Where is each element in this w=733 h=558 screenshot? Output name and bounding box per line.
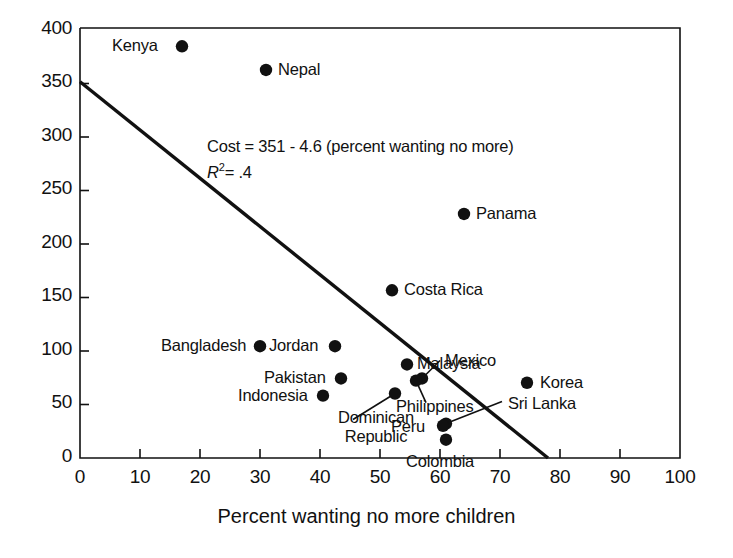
data-point-marker <box>458 208 470 220</box>
data-point-markers <box>176 40 533 446</box>
data-point-marker <box>401 358 413 370</box>
chart-figure: 400 350 300 250 200 150 100 50 0 0 10 20… <box>0 0 733 558</box>
x-tick-label-30: 30 <box>230 466 290 488</box>
regression-equation-text: Cost = 351 - 4.6 (percent wanting no mor… <box>207 137 514 156</box>
data-point-marker <box>440 434 452 446</box>
r-squared-value: = .4 <box>225 163 252 181</box>
data-point-marker <box>521 377 533 389</box>
data-point-marker <box>386 284 398 296</box>
r-squared-symbol: R <box>207 163 219 181</box>
x-tick-label-90: 90 <box>590 466 650 488</box>
data-point-marker <box>410 374 422 386</box>
x-tick-label-10: 10 <box>110 466 170 488</box>
y-axis-ticks <box>80 84 89 405</box>
point-label-korea: Korea <box>540 373 583 392</box>
data-point-marker <box>329 340 341 352</box>
y-tick-label-350: 350 <box>12 70 72 92</box>
point-label-nepal: Nepal <box>278 60 320 79</box>
point-label-panama: Panama <box>476 204 536 223</box>
x-tick-label-70: 70 <box>470 466 530 488</box>
point-label-mexico: Mexico <box>445 351 496 370</box>
y-tick-label-200: 200 <box>12 231 72 253</box>
y-tick-label-50: 50 <box>12 391 72 413</box>
y-tick-label-400: 400 <box>12 17 72 39</box>
data-point-marker <box>335 372 347 384</box>
point-label-costa-rica: Costa Rica <box>404 280 483 299</box>
y-tick-label-0: 0 <box>12 445 72 467</box>
r-squared-annotation: R2= .4 <box>207 161 252 182</box>
y-tick-label-250: 250 <box>12 177 72 199</box>
y-tick-label-300: 300 <box>12 124 72 146</box>
x-tick-label-100: 100 <box>650 466 710 488</box>
data-point-marker <box>260 64 272 76</box>
axis-frame <box>80 28 680 458</box>
x-axis-title: Percent wanting no more children <box>0 505 733 528</box>
x-tick-label-50: 50 <box>350 466 410 488</box>
x-tick-label-40: 40 <box>290 466 350 488</box>
data-point-marker <box>254 340 266 352</box>
y-tick-label-150: 150 <box>12 284 72 306</box>
data-point-marker <box>176 40 188 52</box>
x-tick-label-20: 20 <box>170 466 230 488</box>
data-point-marker <box>437 420 449 432</box>
x-tick-label-80: 80 <box>530 466 590 488</box>
x-tick-label-0: 0 <box>50 466 110 488</box>
data-point-marker <box>317 389 329 401</box>
y-tick-label-100: 100 <box>12 338 72 360</box>
point-label-sri-lanka: Sri Lanka <box>508 394 576 413</box>
